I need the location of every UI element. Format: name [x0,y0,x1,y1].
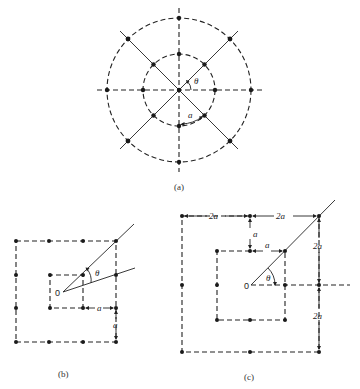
origin-label-c: 0 [244,281,249,291]
caption-a: (a) [174,182,184,192]
ray-c [251,200,335,285]
dim-label-top-left: 2a [209,211,219,221]
panel-c: 0 θ 2a 2a a a 2a [180,200,350,382]
theta-label-a: θ [194,76,199,86]
dim-label-right-upper: 2a [313,241,323,251]
origin-label-b: 0 [55,288,60,298]
spacing-label-b-horizontal: a [97,303,102,313]
panel-a: θ a (a) [97,8,263,192]
theta-label-c: θ [266,273,271,283]
dim-label-inner-half: a [265,240,270,250]
arc-length-label: a [188,110,193,120]
panel-b: 0 θ a a (b) [14,224,135,379]
spacing-label-b-vertical: a [113,320,118,330]
figure-canvas: θ a (a) 0 [0,0,360,389]
theta-arc-b [87,269,91,283]
dim-label-inner-gap: a [253,229,258,239]
dim-label-top-right: 2a [276,211,286,221]
theta-arc-a [188,82,192,91]
caption-b: (b) [58,369,69,379]
dim-label-right-lower: 2a [313,311,323,321]
theta-label-b: θ [95,268,100,278]
ray-b-1 [63,224,134,292]
grid-points-a [105,16,253,164]
caption-c: (c) [244,372,254,382]
